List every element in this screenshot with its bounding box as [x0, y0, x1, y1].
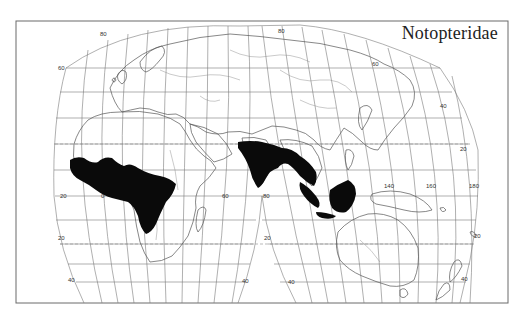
map-title: Notopteridae [400, 23, 500, 44]
label-lat-80-top: 80 [278, 28, 285, 34]
label-lat-20s-left: 20 [58, 235, 65, 241]
label-lat-20s-right: 20 [474, 233, 481, 239]
label-lon-160: 160 [426, 183, 437, 189]
label-lon-80: 80 [263, 193, 270, 199]
label-lat-40s-left: 40 [68, 277, 75, 283]
label-lon-140: 140 [384, 183, 395, 189]
label-lon-20w: 20 [60, 193, 67, 199]
label-lat-80-left: 80 [100, 31, 107, 37]
label-lat-60-top: 60 [372, 61, 379, 67]
label-lat-60-left: 60 [58, 65, 65, 71]
label-lat-40s-center-left: 40 [242, 278, 249, 284]
label-lat-40s-center-right: 40 [288, 279, 295, 285]
label-lat-20s-center: 20 [264, 235, 271, 241]
label-lat-40-right: 40 [440, 103, 447, 109]
label-lon-60: 60 [222, 193, 229, 199]
label-lat-40s-right: 40 [461, 276, 468, 282]
label-lat-20-right: 20 [460, 146, 467, 152]
world-map: 80 60 20 0 20 40 60 80 20 40 40 80 60 40… [0, 0, 530, 315]
label-lon-180: 180 [469, 183, 480, 189]
